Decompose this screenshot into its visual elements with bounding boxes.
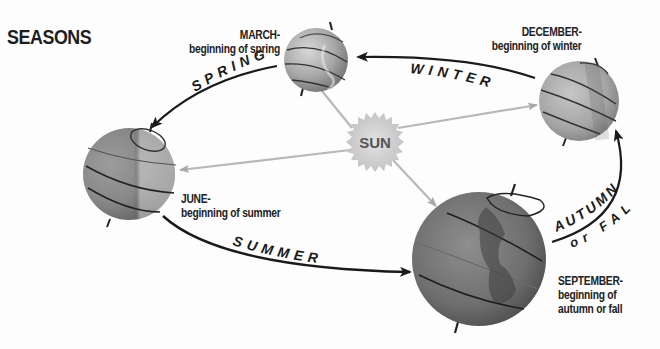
june-description: beginning of summer: [181, 206, 281, 220]
june-month: JUNE-: [181, 192, 281, 206]
summer-arrow: [163, 216, 410, 272]
globe-june: [83, 123, 176, 227]
label-june: JUNE- beginning of summer: [181, 192, 302, 220]
september-description-line1: beginning of: [558, 288, 623, 302]
page-title: SEASONS: [7, 25, 91, 49]
september-description-line2: autumn or fall: [558, 302, 623, 316]
globe-march: [284, 22, 348, 96]
globe-december: [539, 58, 619, 146]
march-month: MARCH-: [189, 28, 280, 42]
globe-september: [412, 184, 546, 333]
seasons-diagram: SUN: [0, 0, 660, 349]
label-december: DECEMBER- beginning of winter: [472, 25, 582, 53]
september-month: SEPTEMBER-: [558, 274, 623, 288]
sun-label: SUN: [359, 134, 391, 151]
march-description: beginning of spring: [189, 42, 280, 56]
label-march: MARCH- beginning of spring: [169, 28, 280, 56]
december-month: DECEMBER-: [492, 25, 582, 39]
label-september: SEPTEMBER- beginning of autumn or fall: [558, 274, 637, 316]
december-description: beginning of winter: [492, 39, 582, 53]
